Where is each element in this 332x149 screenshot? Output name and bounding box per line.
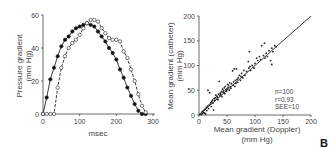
panel-label: B	[320, 137, 328, 149]
x-tick-label: 200	[110, 118, 122, 125]
scatter-point	[231, 83, 233, 85]
left-series	[41, 18, 147, 115]
left-x-label: msec	[88, 129, 107, 138]
open-marker	[137, 93, 140, 96]
open-marker	[122, 50, 125, 53]
scatter-point	[248, 67, 250, 69]
scatter-point	[268, 50, 270, 52]
open-marker	[82, 27, 85, 30]
scatter-point	[218, 80, 220, 82]
filled-marker	[52, 66, 55, 69]
stat-n: n=100	[275, 88, 294, 95]
x-tick-label: 200	[305, 118, 317, 125]
scatter-point	[238, 75, 240, 77]
scatter-point	[264, 42, 266, 44]
filled-marker	[137, 109, 140, 112]
scatter-point	[229, 82, 231, 84]
filled-marker	[122, 76, 125, 79]
scatter-point	[240, 75, 242, 77]
scatter-point	[275, 46, 277, 48]
open-marker	[118, 40, 121, 43]
scatter-point	[235, 79, 237, 81]
scatter-point	[263, 55, 265, 57]
open-marker	[100, 27, 103, 30]
scatter-point	[251, 65, 253, 67]
scatter-point	[257, 60, 259, 62]
scatter-point	[271, 47, 273, 49]
scatter-point	[217, 96, 219, 98]
scatter-point	[205, 107, 207, 109]
scatter-point	[242, 77, 244, 79]
filled-marker	[118, 68, 121, 71]
scatter-point	[221, 91, 223, 93]
open-marker	[74, 38, 77, 41]
filled-marker	[96, 30, 99, 33]
filled-marker	[60, 45, 63, 48]
scatter-point	[264, 57, 266, 59]
filled-marker	[93, 25, 96, 28]
scatter-point	[235, 82, 237, 84]
filled-marker	[74, 27, 77, 30]
filled-marker	[56, 55, 59, 58]
open-marker	[78, 33, 81, 36]
filled-marker	[104, 40, 107, 43]
x-tick-label: 100	[249, 118, 261, 125]
open-marker	[107, 36, 110, 39]
scatter-point	[227, 86, 229, 88]
scatter-point	[215, 98, 217, 100]
scatter-point	[236, 68, 238, 70]
open-marker	[140, 104, 143, 107]
x-tick-label: 150	[277, 118, 289, 125]
open-marker	[126, 56, 129, 59]
open-marker	[144, 111, 147, 114]
right-x-label-line2: (mm Hg)	[241, 135, 272, 144]
scatter-point	[209, 92, 211, 94]
figure: 0204060 0100200300 Pressure gradient (mm…	[0, 0, 332, 149]
regression-line	[199, 16, 311, 115]
scatter-point	[222, 88, 224, 90]
scatter-point	[271, 64, 273, 66]
open-marker	[93, 18, 96, 21]
filled-marker	[140, 112, 143, 115]
scatter-point	[228, 89, 230, 91]
scatter-point	[224, 85, 226, 87]
open-marker	[85, 22, 88, 25]
scatter-point	[221, 96, 223, 98]
scatter-point	[237, 81, 239, 83]
y-tick-label: 100	[183, 62, 195, 69]
scatter-point	[223, 90, 225, 92]
open-marker	[104, 31, 107, 34]
filled-marker	[126, 86, 129, 89]
filled-marker	[67, 35, 70, 38]
filled-marker	[78, 25, 81, 28]
right-x-ticks: 050100150200	[197, 115, 317, 125]
scatter-point	[220, 94, 222, 96]
scatter-point	[206, 110, 208, 112]
open-marker	[60, 66, 63, 69]
scatter-point	[236, 78, 238, 80]
scatter-point	[260, 59, 262, 61]
filled-marker	[107, 46, 110, 49]
scatter-point	[240, 79, 242, 81]
y-tick-label: 0	[191, 112, 195, 119]
y-tick-label: 60	[31, 12, 39, 19]
scatter-point	[256, 57, 258, 59]
filled-marker	[71, 30, 74, 33]
right-y-ticks: 050100150200	[183, 13, 199, 119]
filled-marker	[63, 38, 66, 41]
scatter-point	[259, 56, 261, 58]
scatter-point	[274, 45, 276, 47]
filled-marker	[129, 94, 132, 97]
scatter-point	[237, 77, 239, 79]
y-tick-label: 0	[35, 111, 39, 118]
open-marker	[89, 18, 92, 21]
scatter-point	[270, 60, 272, 62]
series-line	[43, 20, 146, 114]
scatter-point	[217, 99, 219, 101]
scatter-point	[226, 88, 228, 90]
filled-marker	[45, 96, 48, 99]
scatter-point	[213, 109, 215, 111]
scatter-points	[199, 42, 277, 115]
y-tick-label: 50	[187, 87, 195, 94]
filled-marker	[100, 35, 103, 38]
